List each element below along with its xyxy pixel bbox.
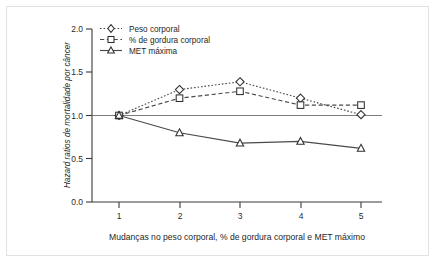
legend-label-2: MET máxima (129, 47, 178, 56)
square-marker-icon (108, 37, 114, 43)
y-axis-title: Hazard ratios de mortalidade por câncer (63, 42, 72, 188)
x-axis-title: Mudanças no peso corporal, % de gordura … (109, 232, 365, 242)
x-tick-label-3: 3 (238, 211, 243, 221)
x-tick-label-1: 1 (117, 211, 122, 221)
y-tick-label-1: 0.5 (71, 154, 83, 164)
square-marker-point (176, 95, 183, 102)
square-marker-point (237, 88, 244, 95)
y-tick-label-4: 2.0 (71, 24, 83, 34)
series-layer (115, 78, 365, 152)
y-tick-label-0: 0.0 (71, 197, 83, 207)
y-axis-ticks (86, 29, 92, 202)
legend-item-peso-corporal[interactable]: Peso corporal (100, 25, 180, 34)
triangle-marker-point (297, 137, 304, 144)
y-tick-label-3: 1.5 (71, 67, 83, 77)
line-chart: 0.0 0.5 1.0 1.5 2.0 1 2 3 4 5 Mudanças n… (0, 0, 435, 262)
y-tick-label-2: 1.0 (71, 111, 83, 121)
x-tick-label-2: 2 (178, 211, 183, 221)
series-de-gordura-corporal (116, 88, 365, 119)
diamond-marker-point (357, 111, 365, 119)
legend-label-0: Peso corporal (129, 25, 180, 34)
square-marker-point (297, 102, 304, 109)
series-line (119, 82, 361, 116)
diamond-marker-point (296, 94, 304, 102)
diamond-marker-point (236, 78, 244, 86)
x-tick-label-4: 4 (299, 211, 304, 221)
square-marker-point (358, 102, 365, 109)
series-met-m-xima (115, 112, 364, 152)
figure-container: 0.0 0.5 1.0 1.5 2.0 1 2 3 4 5 Mudanças n… (0, 0, 435, 262)
diamond-marker-point (175, 85, 183, 93)
legend-label-1: % de gordura corporal (129, 36, 210, 45)
legend-item-gordura-corporal[interactable]: % de gordura corporal (100, 36, 210, 45)
legend-item-met-maxima[interactable]: MET máxima (100, 47, 178, 56)
chart-legend: Peso corporal % de gordura corporal MET … (100, 25, 210, 56)
x-tick-label-5: 5 (359, 211, 364, 221)
diamond-marker-icon (108, 25, 114, 33)
series-peso-corporal (115, 78, 365, 120)
x-axis-ticks (119, 202, 361, 208)
